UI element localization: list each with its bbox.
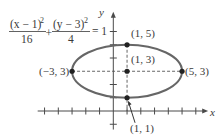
data-point — [124, 69, 129, 74]
label-pointer-arrowhead-icon — [128, 101, 132, 106]
equation-term1-numerator: (x − 1) — [10, 18, 42, 31]
point-label: (5, 3) — [185, 65, 209, 78]
equation: (x − 1) 2 16 + (y − 3) 2 4 = 1 — [9, 16, 107, 45]
x-axis-arrow-icon — [202, 109, 208, 114]
x-axis-label: x — [209, 106, 215, 118]
equation-equals-one: = 1 — [92, 25, 107, 37]
point-label: (1, 5) — [131, 27, 155, 40]
data-point — [124, 42, 129, 47]
equation-term2-exponent: 2 — [84, 16, 88, 25]
point-labels: (1, 5)(1, 3)(−3, 3)(5, 3)(1, 1) — [39, 27, 209, 135]
label-pointer-arrow — [129, 102, 136, 123]
point-label: (1, 3) — [131, 53, 155, 66]
equation-term1-denominator: 16 — [21, 33, 33, 45]
dashed-guides — [72, 45, 182, 111]
y-axis-arrow-icon — [111, 12, 116, 18]
equation-term1-exponent: 2 — [40, 16, 44, 25]
ellipse-plot: (1, 5)(1, 3)(−3, 3)(5, 3)(1, 1) x y (x −… — [0, 0, 219, 140]
equation-term2-denominator: 4 — [68, 33, 74, 45]
y-axis-label: y — [98, 6, 104, 18]
data-point — [124, 95, 129, 100]
equation-plus: + — [46, 27, 53, 39]
point-label: (1, 1) — [130, 122, 154, 135]
point-label: (−3, 3) — [39, 65, 69, 78]
equation-term2-numerator: (y − 3) — [53, 18, 85, 31]
data-point — [69, 69, 74, 74]
data-point — [179, 69, 184, 74]
